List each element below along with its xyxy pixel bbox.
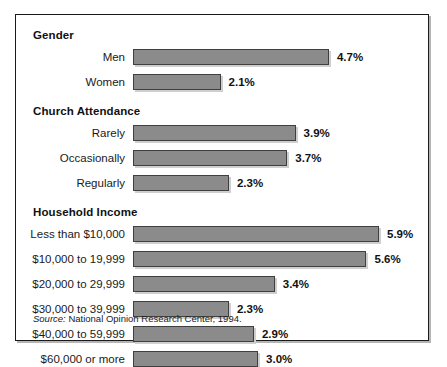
bar-value-label: 3.0%	[266, 351, 292, 367]
bar-category-label: $10,000 to 19,999	[32, 251, 125, 267]
bar-category-label: Rarely	[92, 125, 125, 141]
bar-category-label: $60,000 or more	[41, 351, 125, 367]
chart-frame: GenderMen4.7%Women2.1%Church AttendanceR…	[15, 14, 429, 341]
bar-row: Rarely3.9%	[16, 125, 428, 141]
bar-value-label: 4.7%	[337, 49, 363, 65]
bar-category-label: Less than $10,000	[30, 226, 125, 242]
bar-value-label: 5.9%	[387, 226, 413, 242]
bar-value-label: 3.9%	[304, 125, 330, 141]
bar	[133, 49, 329, 65]
source-label: Source:	[33, 313, 66, 324]
bar-row: Regularly2.3%	[16, 175, 428, 191]
bar-category-label: Regularly	[76, 175, 125, 191]
bar	[133, 175, 229, 191]
section-header-household-income: Household Income	[33, 206, 137, 218]
bar	[133, 276, 275, 292]
source-citation: National Opinion Research Center, 1994.	[66, 313, 242, 324]
bar-value-label: 2.1%	[229, 74, 255, 90]
bar-chart: GenderMen4.7%Women2.1%Church AttendanceR…	[16, 15, 428, 340]
bar-row: $60,000 or more3.0%	[16, 351, 428, 367]
bar	[133, 351, 258, 367]
bar	[133, 150, 287, 166]
bar	[133, 125, 296, 141]
section-header-gender: Gender	[33, 29, 74, 41]
bar-row: $20,000 to 29,9993.4%	[16, 276, 428, 292]
bar-value-label: 5.6%	[374, 251, 400, 267]
section-header-church-attendance: Church Attendance	[33, 105, 140, 117]
bar-category-label: Occasionally	[60, 150, 125, 166]
bar-row: Men4.7%	[16, 49, 428, 65]
bar	[133, 226, 379, 242]
bar	[133, 326, 254, 342]
bar-category-label: $20,000 to 29,999	[32, 276, 125, 292]
bar	[133, 251, 366, 267]
bar-category-label: $40,000 to 59,999	[32, 326, 125, 342]
bar-row: Occasionally3.7%	[16, 150, 428, 166]
bar-value-label: 2.3%	[237, 175, 263, 191]
bar-row: Women2.1%	[16, 74, 428, 90]
bar-row: $10,000 to 19,9995.6%	[16, 251, 428, 267]
source-note: Source: National Opinion Research Center…	[33, 313, 242, 324]
bar-category-label: Men	[103, 49, 125, 65]
bar-row: $40,000 to 59,9992.9%	[16, 326, 428, 342]
bar	[133, 74, 221, 90]
bar-category-label: Women	[86, 74, 125, 90]
bar-value-label: 2.9%	[262, 326, 288, 342]
bar-value-label: 3.4%	[283, 276, 309, 292]
bar-row: Less than $10,0005.9%	[16, 226, 428, 242]
bar-value-label: 3.7%	[295, 150, 321, 166]
